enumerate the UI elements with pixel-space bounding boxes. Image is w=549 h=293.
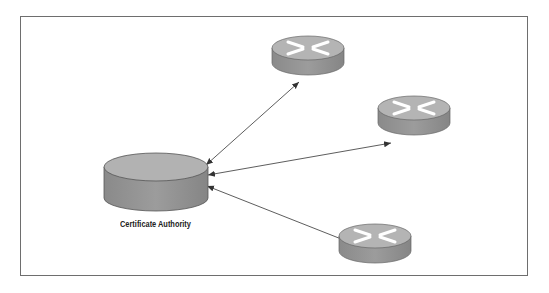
- diagram-canvas: [0, 0, 549, 293]
- certificate-authority-server-icon: [104, 153, 208, 211]
- router-icon-2: [378, 96, 450, 135]
- edge-ca-router-2: [208, 143, 391, 175]
- router-icon-3: [339, 224, 411, 263]
- edge-ca-router-1: [206, 82, 299, 165]
- edge-ca-router-3: [207, 186, 359, 246]
- certificate-authority-label: Certificate Authority: [120, 218, 191, 229]
- router-icon-1: [272, 36, 344, 75]
